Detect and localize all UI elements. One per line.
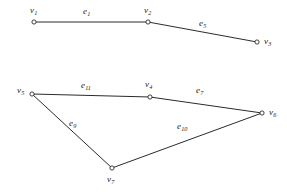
vertex-label-v7: v7 bbox=[107, 175, 114, 184]
vertex-node-v7 bbox=[110, 166, 114, 170]
edge-e7 bbox=[150, 97, 262, 113]
vertex-label-v3: v3 bbox=[264, 37, 271, 46]
vertex-node-v6 bbox=[260, 111, 264, 115]
vertex-node-v1 bbox=[32, 20, 36, 24]
graph-figure: e1e5v1v2v3e11e7e9e10v5v4v6v7 bbox=[0, 0, 287, 192]
vertex-node-v5 bbox=[30, 92, 34, 96]
vertex-node-v4 bbox=[148, 95, 152, 99]
edge-label-e9: e9 bbox=[69, 119, 76, 128]
edge-label-e11: e11 bbox=[81, 81, 91, 90]
vertex-label-v5: v5 bbox=[17, 86, 24, 95]
vertex-label-v4: v4 bbox=[145, 80, 152, 89]
edge-e9 bbox=[32, 94, 112, 168]
edge-label-e7: e7 bbox=[196, 86, 203, 95]
edge-label-e5: e5 bbox=[199, 19, 206, 28]
graph-canvas bbox=[0, 0, 287, 192]
vertex-label-v6: v6 bbox=[269, 108, 276, 117]
vertex-node-v2 bbox=[146, 20, 150, 24]
vertex-label-v2: v2 bbox=[144, 6, 151, 15]
edge-label-e1: e1 bbox=[83, 7, 90, 16]
vertex-node-v3 bbox=[255, 40, 259, 44]
edge-label-e10: e10 bbox=[177, 122, 187, 131]
edge-e11 bbox=[32, 94, 150, 97]
edges-layer bbox=[32, 22, 262, 168]
vertex-label-v1: v1 bbox=[30, 6, 37, 15]
